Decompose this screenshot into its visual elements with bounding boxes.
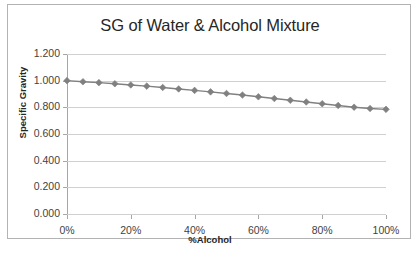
y-axis-tick-label-text: 0.400 (14, 154, 60, 166)
chart-title: SG of Water & Alcohol Mixture (8, 16, 412, 35)
data-point-marker (335, 102, 342, 109)
data-point-marker (239, 92, 246, 99)
y-axis-tick-label: 0.400 (8, 154, 60, 166)
data-point-marker (383, 106, 390, 113)
y-axis-tick-label: 1.200 (8, 47, 60, 59)
x-axis-tick (67, 215, 68, 219)
data-point-marker (112, 80, 119, 87)
data-point-marker (80, 78, 87, 85)
data-point-marker (143, 83, 150, 90)
y-axis-tick-label: 1.000 (8, 74, 60, 86)
data-point-marker (319, 100, 326, 107)
y-axis-tick-label-text: 0.000 (14, 207, 60, 219)
x-axis-tick (386, 215, 387, 219)
x-axis-title: %Alcohol (8, 234, 412, 245)
y-axis-tick-label: 0.000 (8, 207, 60, 219)
data-point-marker (271, 95, 278, 102)
y-axis-tick-label-text: 1.200 (14, 47, 60, 59)
data-point-marker (128, 82, 135, 89)
x-axis-tick (258, 215, 259, 219)
gridline (67, 214, 386, 215)
data-point-marker (191, 87, 198, 94)
data-series-line (67, 54, 386, 214)
data-point-marker (303, 99, 310, 106)
y-axis-tick-label: 0.800 (8, 100, 60, 112)
plot-area (67, 54, 386, 214)
data-point-marker (255, 94, 262, 101)
y-axis-tick-label-text: 0.200 (14, 180, 60, 192)
y-axis-tick-label: 0.200 (8, 180, 60, 192)
data-point-marker (159, 84, 166, 91)
data-point-marker (64, 77, 71, 84)
data-point-marker (287, 97, 294, 104)
x-axis-tick (322, 215, 323, 219)
data-point-marker (96, 79, 103, 86)
y-axis-tick-label-text: 1.000 (14, 74, 60, 86)
data-point-marker (175, 86, 182, 93)
data-point-marker (367, 105, 374, 112)
chart-container: SG of Water & Alcohol Mixture Specific G… (7, 4, 411, 239)
y-axis-tick-label: 0.600 (8, 127, 60, 139)
x-axis-tick (131, 215, 132, 219)
data-point-marker (351, 104, 358, 111)
x-axis-tick (195, 215, 196, 219)
y-axis-tick-label-text: 0.600 (14, 127, 60, 139)
data-point-marker (223, 90, 230, 97)
data-point-marker (207, 89, 214, 96)
y-axis-tick-label-text: 0.800 (14, 100, 60, 112)
